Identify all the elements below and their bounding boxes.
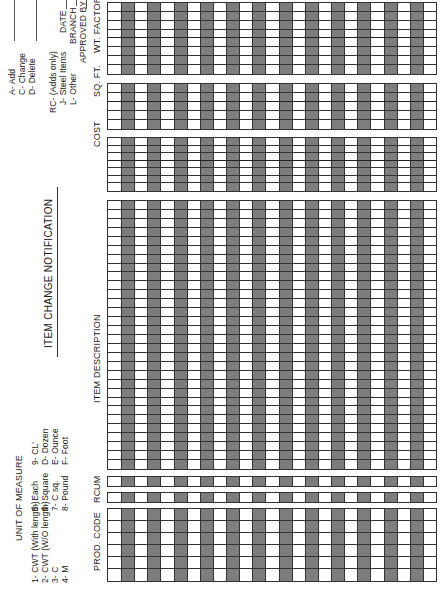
form-row[interactable] xyxy=(174,84,187,129)
form-row[interactable] xyxy=(357,84,370,129)
form-row[interactable] xyxy=(292,493,305,502)
form-row[interactable] xyxy=(265,201,278,469)
form-row[interactable] xyxy=(279,477,292,486)
form-row[interactable] xyxy=(200,84,213,129)
form-row[interactable] xyxy=(213,84,226,129)
form-row[interactable] xyxy=(397,477,410,486)
form-row[interactable] xyxy=(423,493,436,502)
form-row[interactable] xyxy=(292,477,305,486)
form-row[interactable] xyxy=(200,201,213,469)
form-row[interactable] xyxy=(397,84,410,129)
form-row[interactable] xyxy=(187,84,200,129)
prod-code-column[interactable] xyxy=(107,508,437,582)
form-row[interactable] xyxy=(252,493,265,502)
form-row[interactable] xyxy=(292,84,305,129)
form-row[interactable] xyxy=(160,477,173,486)
form-row[interactable] xyxy=(305,84,318,129)
form-row[interactable] xyxy=(397,493,410,502)
form-row[interactable] xyxy=(147,201,160,469)
form-row[interactable] xyxy=(305,201,318,469)
form-row[interactable] xyxy=(344,493,357,502)
form-row[interactable] xyxy=(318,201,331,469)
form-row[interactable] xyxy=(121,477,134,486)
form-row[interactable] xyxy=(357,493,370,502)
form-row[interactable] xyxy=(239,493,252,502)
form-row[interactable] xyxy=(370,84,383,129)
form-row[interactable] xyxy=(239,201,252,469)
form-row[interactable] xyxy=(134,477,147,486)
rc-column[interactable] xyxy=(107,492,437,503)
form-row[interactable] xyxy=(252,84,265,129)
sq-ft-column[interactable] xyxy=(107,83,437,130)
form-row[interactable] xyxy=(344,477,357,486)
form-row[interactable] xyxy=(318,493,331,502)
form-row[interactable] xyxy=(174,493,187,502)
form-row[interactable] xyxy=(160,201,173,469)
form-row[interactable] xyxy=(108,493,121,502)
form-row[interactable] xyxy=(187,201,200,469)
form-row[interactable] xyxy=(292,201,305,469)
form-row[interactable] xyxy=(187,493,200,502)
form-row[interactable] xyxy=(344,84,357,129)
form-row[interactable] xyxy=(226,493,239,502)
form-row[interactable] xyxy=(279,493,292,502)
form-row[interactable] xyxy=(384,84,397,129)
form-row[interactable] xyxy=(331,84,344,129)
form-row[interactable] xyxy=(200,477,213,486)
date-field-line[interactable] xyxy=(66,0,67,9)
item-description-column[interactable] xyxy=(107,200,437,470)
form-row[interactable] xyxy=(370,477,383,486)
form-row[interactable] xyxy=(160,84,173,129)
form-row[interactable] xyxy=(384,493,397,502)
form-row[interactable] xyxy=(239,477,252,486)
form-row[interactable] xyxy=(213,493,226,502)
form-row[interactable] xyxy=(174,477,187,486)
form-row[interactable] xyxy=(108,477,121,486)
form-row[interactable] xyxy=(147,84,160,129)
form-row[interactable] xyxy=(331,201,344,469)
form-row[interactable] xyxy=(344,201,357,469)
form-row[interactable] xyxy=(423,201,436,469)
form-row[interactable] xyxy=(331,493,344,502)
form-row[interactable] xyxy=(397,201,410,469)
form-row[interactable] xyxy=(384,477,397,486)
form-row[interactable] xyxy=(200,493,213,502)
form-row[interactable] xyxy=(160,493,173,502)
form-row[interactable] xyxy=(279,84,292,129)
form-row[interactable] xyxy=(108,201,121,469)
form-row[interactable] xyxy=(226,477,239,486)
form-row[interactable] xyxy=(134,84,147,129)
form-row[interactable] xyxy=(318,84,331,129)
form-row[interactable] xyxy=(213,201,226,469)
wt-factor-column[interactable] xyxy=(107,2,437,75)
form-row[interactable] xyxy=(410,84,423,129)
form-row[interactable] xyxy=(187,477,200,486)
form-row[interactable] xyxy=(370,201,383,469)
form-row[interactable] xyxy=(265,84,278,129)
form-row[interactable] xyxy=(226,201,239,469)
form-row[interactable] xyxy=(134,201,147,469)
approved-by-field-line[interactable] xyxy=(86,0,87,9)
form-row[interactable] xyxy=(239,84,252,129)
form-row[interactable] xyxy=(147,493,160,502)
form-row[interactable] xyxy=(226,84,239,129)
form-row[interactable] xyxy=(121,493,134,502)
form-row[interactable] xyxy=(331,477,344,486)
form-row[interactable] xyxy=(305,477,318,486)
form-row[interactable] xyxy=(265,477,278,486)
form-row[interactable] xyxy=(410,201,423,469)
form-row[interactable] xyxy=(265,493,278,502)
form-row[interactable] xyxy=(384,201,397,469)
form-row[interactable] xyxy=(423,84,436,129)
form-row[interactable] xyxy=(121,201,134,469)
um-column[interactable] xyxy=(107,476,437,487)
form-row[interactable] xyxy=(108,84,121,129)
form-row[interactable] xyxy=(357,201,370,469)
form-row[interactable] xyxy=(305,493,318,502)
form-row[interactable] xyxy=(174,201,187,469)
form-row[interactable] xyxy=(357,477,370,486)
form-row[interactable] xyxy=(147,477,160,486)
form-row[interactable] xyxy=(318,477,331,486)
cost-column[interactable] xyxy=(107,137,437,192)
form-row[interactable] xyxy=(423,477,436,486)
